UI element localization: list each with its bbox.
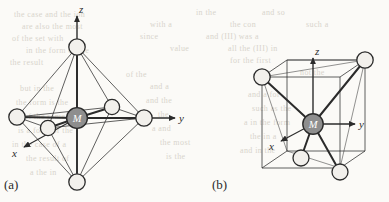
panel-a-octahedron: M z y x (9, 3, 184, 190)
panel-b-caption: (b) (212, 177, 227, 193)
panel-a-ligand-top (69, 39, 85, 55)
panel-a-ligand-front-left (40, 120, 55, 135)
panel-b-tetrahedron: M z y x (254, 45, 373, 180)
panel-a-ligand-bottom (69, 174, 85, 190)
panel-b-bond-upper-right (313, 60, 365, 124)
panel-b-z-axis-label: z (314, 45, 320, 57)
figure-root: the case and the ionin theand soare also… (0, 0, 389, 202)
panel-a-y-axis-label: y (178, 112, 184, 124)
panel-b-center-label: M (308, 119, 319, 130)
panel-a-z-axis-label: z (78, 3, 84, 15)
panel-a-caption: (a) (4, 177, 18, 193)
panel-a-ligand-back-right (104, 99, 119, 114)
figure-canvas: M z y x (0, 0, 389, 202)
panel-b-ligand-upper-right (357, 52, 373, 68)
panel-a-center-label: M (72, 113, 83, 124)
panel-a-ligand-right (136, 110, 152, 126)
panel-b-ligand-upper-left (254, 69, 270, 85)
panel-b-ligand-lower-right (332, 164, 348, 180)
panel-b-y-axis-label: y (358, 118, 364, 130)
panel-b-x-axis-label: x (268, 140, 274, 152)
panel-a-x-axis-label: x (11, 147, 17, 159)
panel-b-ligand-lower-front (293, 150, 309, 166)
panel-a-ligand-left (9, 109, 25, 125)
